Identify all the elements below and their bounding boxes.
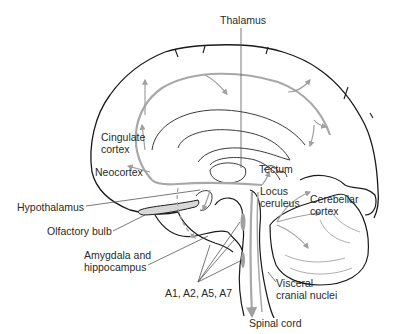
label-cerebellar-cortex: Cerebellar cortex [310,193,358,217]
leader-visceral [268,272,276,282]
brain-illustration [0,0,401,334]
brain-diagram: Thalamus Cingulate cortex Neocortex Tect… [0,0,401,334]
label-olfactory-bulb: Olfactory bulb [47,225,112,237]
pathway-descending [251,192,253,316]
olfactory-bulb-shape [138,200,198,215]
label-amygdala-hippocampus: Amygdala and hippocampus [84,249,151,273]
label-spinal-cord: Spinal cord [249,317,302,329]
label-tectum: Tectum [259,163,293,175]
label-neocortex: Neocortex [95,166,143,178]
label-cingulate-cortex: Cingulate cortex [101,131,145,155]
label-locus-ceruleus: Locus ceruleus [260,185,300,209]
label-thalamus: Thalamus [220,14,266,26]
leader-amygdala [148,236,208,265]
label-a-groups: A1, A2, A5, A7 [165,287,232,299]
label-visceral-cranial-nuclei: Visceral cranial nuclei [276,277,337,301]
label-hypothalamus: Hypothalamus [17,201,84,213]
leader-olfactory [113,215,145,231]
